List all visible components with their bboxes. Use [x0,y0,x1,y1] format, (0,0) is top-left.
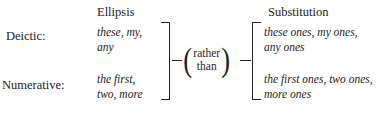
ellipsis-numerative-line-2: two, more [97,87,143,102]
ellipsis-numerative-line-1: the first, [97,72,143,87]
substitution-example-deictic: these ones, my ones, any ones [264,25,358,54]
closing-bracket-icon [161,22,170,100]
open-paren-icon: ( [183,43,192,77]
bracket-arm-top [252,22,261,23]
substitution-deictic-line-1: these ones, my ones, [264,25,358,40]
rather-than-line-2: than [193,60,220,73]
rather-than-group: ( rather than ) [182,42,231,78]
ellipsis-example-deictic: these, my, any [97,25,142,54]
connector-dash-left [172,60,182,61]
bracket-arm-bottom [161,99,170,100]
rather-than-line-1: rather [193,47,220,60]
substitution-deictic-line-2: any ones [264,40,358,55]
ellipsis-deictic-line-1: these, my, [97,25,142,40]
row-label-numerative: Numerative: [2,78,64,92]
column-heading-substitution: Substitution [268,5,328,19]
bracket-arm-top [161,22,170,23]
column-heading-ellipsis: Ellipsis [97,5,135,19]
ellipsis-deictic-line-2: any [97,40,142,55]
substitution-numerative-line-2: more ones [264,87,373,102]
connector-dash-right [240,60,251,61]
bracket-arm-bottom [252,99,261,100]
rather-than-label: rather than [192,47,221,73]
close-paren-icon: ) [221,43,230,77]
ellipsis-example-numerative: the first, two, more [97,72,143,101]
substitution-numerative-line-1: the first ones, two ones, [264,72,373,87]
row-label-deictic: Deictic: [6,29,46,43]
substitution-example-numerative: the first ones, two ones, more ones [264,72,373,101]
linguistics-figure: Ellipsis Substitution Deictic: Numerativ… [0,0,390,114]
opening-bracket-icon [252,22,261,100]
